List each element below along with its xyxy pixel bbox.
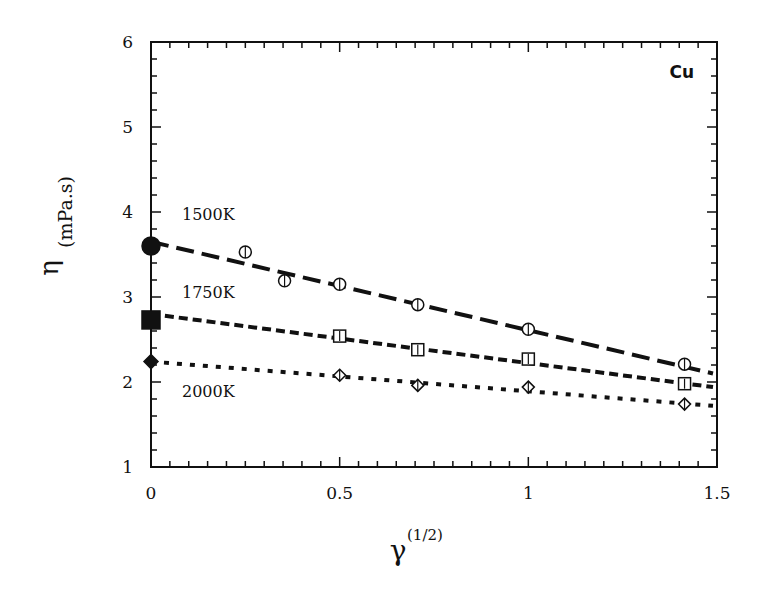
x-axis-superscript: (1/2) [407,526,443,544]
circle-marker [142,237,160,255]
plot-border [151,42,717,467]
y-axis-title: η [34,260,64,276]
viscosity-chart: 00.511.5123456 1500K1750K2000K Cu η (mPa… [0,0,766,591]
x-axis-title: γ (1/2) [390,526,443,567]
element-annotation: Cu [669,62,694,82]
plot-frame [151,42,717,467]
fit-line-1750K [151,314,713,387]
fit-line-2000K [151,362,713,406]
axis-ticks [151,42,717,467]
series-label-1500K: 1500K [182,205,236,224]
series-labels: 1500K1750K2000K [182,205,236,401]
x-tick-label: 1.5 [703,483,730,503]
diamond-marker [144,355,158,369]
x-axis-symbol: γ [390,534,407,567]
y-tick-label: 6 [122,32,133,52]
y-tick-label: 2 [122,372,133,392]
y-tick-label: 5 [122,117,133,137]
x-tick-label: 0.5 [326,483,353,503]
series-label-1750K: 1750K [182,283,236,302]
series-label-2000K: 2000K [182,382,236,401]
y-axis-symbol: η [34,260,64,276]
x-tick-label: 1 [523,483,534,503]
square-marker [142,311,160,329]
y-tick-label: 3 [122,287,133,307]
y-axis-unit-text: (mPa.s) [54,176,76,248]
x-tick-label: 0 [146,483,157,503]
y-tick-label: 4 [122,202,133,222]
fit-lines [151,242,713,406]
fit-line-1500K [151,242,713,374]
y-tick-label: 1 [122,457,133,477]
axis-tick-labels: 00.511.5123456 [122,32,730,503]
y-axis-unit: (mPa.s) [54,176,76,248]
